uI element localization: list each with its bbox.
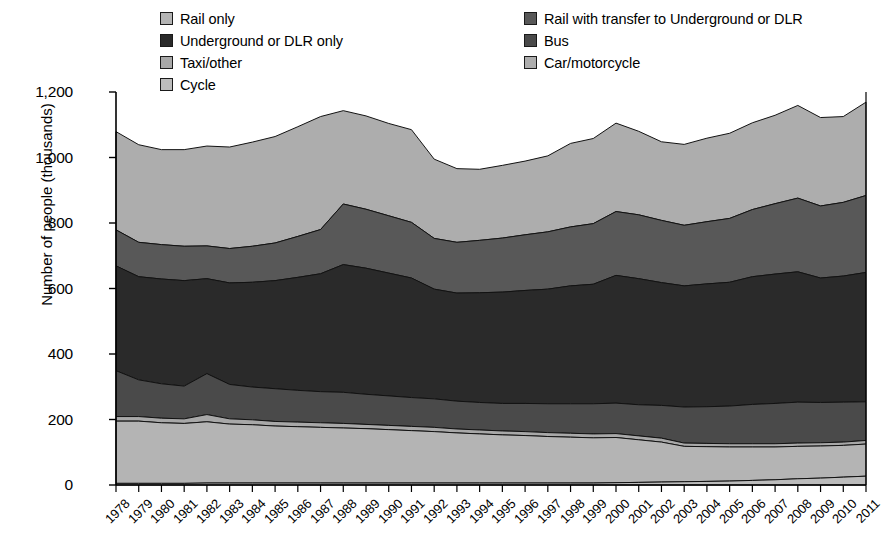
area-series-group (116, 102, 866, 485)
